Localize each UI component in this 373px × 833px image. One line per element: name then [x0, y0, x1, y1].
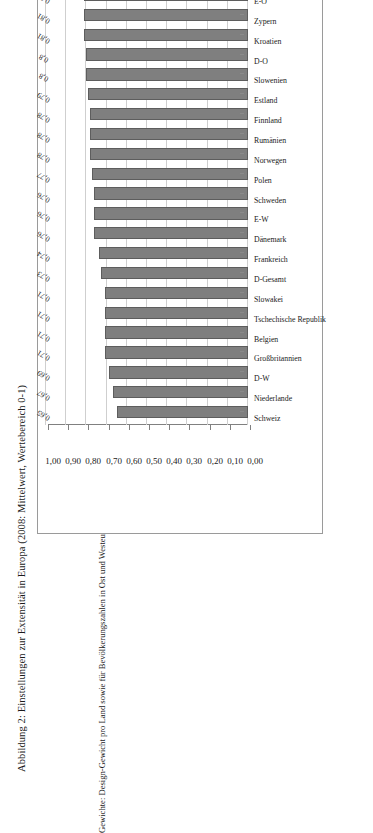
bar-value-label: 0,78	[36, 151, 51, 164]
bar[interactable]: 0,8	[86, 48, 248, 60]
bar-value-label: 0,77	[36, 170, 51, 183]
value-axis-label: 0,20	[207, 456, 223, 466]
value-axis-tick	[169, 425, 170, 430]
bar[interactable]: 0,78	[90, 148, 248, 160]
category-slot: Tschechische Republik	[250, 303, 320, 323]
category-slot: Finnland	[250, 104, 320, 124]
category-tick	[240, 104, 244, 124]
category-tick	[240, 223, 244, 243]
bar[interactable]: 0,65	[117, 406, 248, 418]
bar[interactable]: 0,76	[94, 207, 248, 219]
category-slot: D-O	[250, 45, 320, 65]
bar-slot: 0,71	[48, 343, 248, 363]
bar-value-label: 0,65	[36, 409, 51, 422]
category-tick	[240, 303, 244, 323]
bar-slot: 0,8	[48, 65, 248, 85]
bar-value-label: 0,76	[36, 190, 51, 203]
bar[interactable]: 0,71	[105, 287, 248, 299]
category-tick	[240, 144, 244, 164]
category-tick	[240, 402, 244, 422]
bar-value-label: 0,81	[36, 12, 51, 25]
category-label: Rumänien	[254, 137, 286, 145]
value-axis-label: 0,60	[126, 456, 142, 466]
bar[interactable]: 0,71	[105, 307, 248, 319]
bar[interactable]: 0,79	[88, 88, 248, 100]
value-axis-tick	[189, 425, 190, 430]
bar[interactable]: 0,78	[90, 108, 248, 120]
category-slot: D-Gesamt	[250, 263, 320, 283]
category-label: Großbritannien	[254, 356, 302, 364]
bar[interactable]: 0,77	[92, 168, 248, 180]
category-slot: Slowenien	[250, 65, 320, 85]
category-slot: Schweden	[250, 184, 320, 204]
category-slot: Polen	[250, 164, 320, 184]
category-tick	[240, 243, 244, 263]
bar[interactable]: 0,81	[84, 9, 248, 21]
bar[interactable]: 0,69	[109, 366, 248, 378]
category-tick	[240, 382, 244, 402]
bar[interactable]: 0,81	[84, 0, 248, 1]
bar-value-label: 0,71	[36, 329, 51, 342]
bar[interactable]: 0,71	[105, 346, 248, 358]
category-slot: E-O	[250, 0, 320, 5]
category-tick	[240, 25, 244, 45]
value-axis-tick	[149, 425, 150, 430]
bar-value-label: 0,71	[36, 290, 51, 303]
category-label: Schweiz	[254, 415, 280, 423]
bar-slot: 0,77	[48, 164, 248, 184]
bar-value-label: 0,81	[36, 31, 51, 44]
category-tick	[240, 184, 244, 204]
value-axis-label: 0,40	[166, 456, 182, 466]
category-label: E-O	[254, 0, 267, 6]
bar[interactable]: 0,71	[105, 326, 248, 338]
bar[interactable]: 0,73	[101, 267, 248, 279]
bar-value-label: 0,8	[38, 52, 50, 63]
category-tick	[240, 45, 244, 65]
category-tick	[240, 323, 244, 343]
category-label: Tschechische Republik	[254, 316, 326, 324]
bar-value-label: 0,76	[36, 210, 51, 223]
value-axis-label: 0,30	[187, 456, 203, 466]
category-tick	[240, 164, 244, 184]
bar-slot: 0,78	[48, 104, 248, 124]
category-tick	[240, 5, 244, 25]
bar-slot: 0,74	[48, 243, 248, 263]
category-tick	[240, 65, 244, 85]
plot-area: 0,650,670,690,710,710,710,710,730,740,76…	[48, 0, 248, 425]
bar-slot: 0,73	[48, 263, 248, 283]
bar-value-label: 0,76	[36, 230, 51, 243]
category-slot: E-W	[250, 204, 320, 224]
category-label: E-W	[254, 216, 269, 224]
category-tick	[240, 124, 244, 144]
category-slot: Kroatien	[250, 25, 320, 45]
category-slot: Frankreich	[250, 243, 320, 263]
value-axis-label: 0,80	[86, 456, 102, 466]
category-tick	[240, 0, 244, 5]
bar[interactable]: 0,67	[113, 386, 248, 398]
chart-rotor: 0,650,670,690,710,710,710,710,730,740,76…	[37, 0, 323, 534]
bar-slot: 0,71	[48, 303, 248, 323]
bar[interactable]: 0,76	[94, 187, 248, 199]
bar-value-label: 0,67	[36, 389, 51, 402]
bar[interactable]: 0,8	[86, 68, 248, 80]
category-slot: Rumänien	[250, 124, 320, 144]
category-tick	[240, 362, 244, 382]
chart-plot-frame: 0,650,670,690,710,710,710,710,730,740,76…	[37, 0, 323, 534]
category-tick	[240, 343, 244, 363]
bar-slot: 0,67	[48, 382, 248, 402]
bar-slot: 0,81	[48, 0, 248, 5]
bar[interactable]: 0,74	[99, 247, 248, 259]
category-label: Slowakei	[254, 296, 283, 304]
category-slot: Schweiz	[250, 402, 320, 422]
value-axis-tick	[109, 425, 110, 430]
value-axis-tick	[88, 425, 89, 430]
value-axis-tick	[129, 425, 130, 430]
bar[interactable]: 0,76	[94, 227, 248, 239]
bar-slot: 0,76	[48, 184, 248, 204]
bar[interactable]: 0,78	[90, 128, 248, 140]
bar[interactable]: 0,81	[84, 29, 248, 41]
bar-value-label: 0,74	[36, 250, 51, 263]
category-tick	[240, 263, 244, 283]
category-slot: Niederlande	[250, 382, 320, 402]
